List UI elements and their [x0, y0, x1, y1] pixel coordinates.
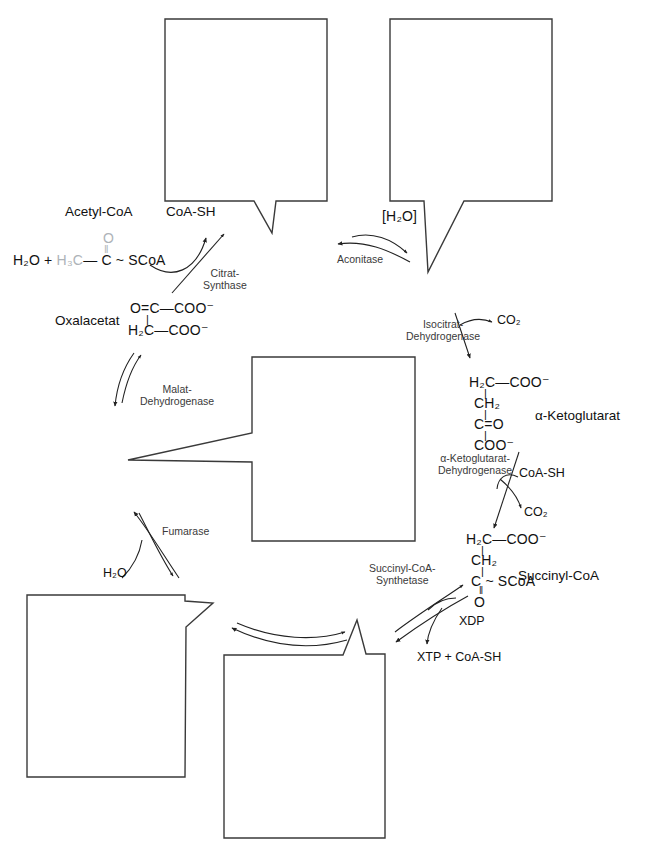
label-acetyl-coa: Acetyl-CoA	[65, 204, 133, 220]
label-oxalacetat: Oxalacetat	[55, 313, 120, 329]
label-co2-first: CO₂	[497, 313, 521, 328]
label-water-fumarase: H₂O	[103, 566, 127, 581]
enzyme-fumarase: Fumarase	[162, 525, 209, 537]
label-coa-sh-top: CoA-SH	[166, 204, 216, 220]
arrow-co2-release-2	[500, 479, 521, 508]
arrow-malat-dehydrogenase-up	[122, 355, 141, 403]
enzyme-isocitrat-dehydrogenase-line1: Isocitrat-	[406, 318, 480, 330]
ketoglutarat-line3: C=O	[474, 416, 504, 433]
enzyme-akgdh-line1: α-Ketoglutarat-	[438, 452, 512, 464]
acetyl-rest: — C ~ SCoA	[83, 252, 166, 268]
enzyme-mdh-line1: Malat-	[140, 383, 214, 395]
arrow-aconitase-forward	[352, 235, 407, 253]
enzyme-akgdh-line2: Dehydrogenase	[438, 464, 512, 476]
arrow-xdp-branch	[428, 598, 456, 610]
arrow-malat-dehydrogenase-down	[115, 353, 134, 406]
acetyl-h3c: H₃C	[57, 252, 84, 268]
enzyme-scs-line2: Synthetase	[369, 574, 436, 586]
callout-malat[interactable]	[30, 598, 182, 774]
enzyme-citrat-synthase-line1: Citrat-	[203, 267, 247, 279]
arrow-bottom-reverse	[232, 628, 347, 646]
ketoglutarat-line1: H₂C—COO⁻	[469, 374, 550, 391]
acetyl-coa-formula: H₂O + H₃C— C ~ SCoA	[13, 252, 166, 269]
callout-isocitrat[interactable]	[393, 22, 549, 198]
label-coa-sh-mid: CoA-SH	[519, 466, 565, 481]
enzyme-citrat-synthase: Citrat- Synthase	[203, 267, 247, 292]
enzyme-isocitrat-dehydrogenase: Isocitrat- Dehydrogenase	[406, 318, 480, 343]
enzyme-scs-line1: Succinyl-CoA-	[369, 562, 436, 574]
callout-succinat[interactable]	[255, 360, 412, 538]
enzyme-succinyl-coa-synthetase: Succinyl-CoA- Synthetase	[369, 562, 436, 587]
ketoglutarat-line2: CH₂	[474, 395, 500, 412]
label-water-bracket: [H₂O]	[382, 208, 417, 225]
callout-fumarat[interactable]	[227, 658, 382, 835]
label-xdp: XDP	[459, 614, 485, 629]
oxalacetat-formula-line2: H₂C—COO⁻	[128, 322, 209, 339]
oxalacetat-formula-line1: O=C—COO⁻	[130, 300, 214, 317]
enzyme-isocitrat-dehydrogenase-line2: Dehydrogenase	[406, 330, 480, 342]
label-xtp-coash: XTP + CoA-SH	[417, 650, 501, 665]
label-succinyl-coa: Succinyl-CoA	[518, 568, 599, 584]
arrow-succinylcoa-synthetase-reverse	[396, 596, 468, 642]
enzyme-aconitase: Aconitase	[337, 253, 383, 265]
diagram-canvas: Acetyl-CoA CoA-SH O ‖ H₂O + H₃C— C ~ SCo…	[0, 0, 660, 853]
arrow-coash-in	[497, 475, 518, 489]
enzyme-alpha-ketoglutarat-dehydrogenase: α-Ketoglutarat- Dehydrogenase	[438, 452, 512, 477]
succinyl-line2: CH₂	[471, 552, 497, 569]
enzyme-mdh-line2: Dehydrogenase	[140, 395, 214, 407]
enzyme-citrat-synthase-line2: Synthase	[203, 279, 247, 291]
arrow-bottom-forward	[237, 623, 345, 638]
arrow-fumarase-forward	[139, 513, 173, 576]
arrow-xdp-to-xtp	[427, 608, 442, 644]
callout-citrat[interactable]	[168, 22, 324, 198]
arrow-fumarase-reverse	[134, 512, 179, 578]
succinyl-line1: H₂C—COO⁻	[466, 531, 547, 548]
arrow-succinylcoa-synthetase-forward	[395, 585, 463, 632]
water-plus: H₂O +	[13, 252, 53, 268]
enzyme-malat-dehydrogenase: Malat- Dehydrogenase	[140, 383, 214, 408]
label-co2-second: CO₂	[524, 505, 548, 520]
succinyl-line4: O	[474, 594, 485, 611]
label-alpha-ketoglutarat: α-Ketoglutarat	[535, 408, 620, 424]
